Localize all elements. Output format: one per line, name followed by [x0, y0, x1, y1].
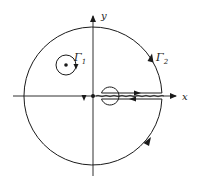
origin-point: [91, 94, 95, 98]
contour-diagram: x y Γ1 Γ2: [0, 0, 197, 184]
y-axis-label: y: [100, 10, 107, 21]
x-axis-label: x: [182, 91, 188, 102]
arrow-right-icon: [134, 91, 141, 96]
arrow-down-icon: [82, 95, 87, 101]
arrow-gamma1-icon: [74, 64, 79, 70]
gamma1-label: Γ1: [73, 51, 86, 66]
singularity-point: [64, 63, 68, 67]
arrow-left-icon: [129, 97, 136, 102]
gamma2-label: Γ2: [155, 51, 169, 66]
